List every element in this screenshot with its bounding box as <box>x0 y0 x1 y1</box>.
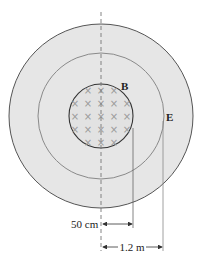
field-x-mark: × <box>71 98 79 109</box>
field-x-mark: × <box>84 85 92 96</box>
field-x-mark: × <box>123 111 131 122</box>
field-x-mark: × <box>110 124 118 135</box>
field-x-mark: × <box>84 98 92 109</box>
magnetic-field-diagram: ××××××××××××××××××××× B E 50 cm 1.2 m <box>0 0 201 259</box>
dimension-label-1-2m: 1.2 m <box>119 241 145 253</box>
field-x-mark: × <box>110 111 118 122</box>
field-x-mark: × <box>71 124 79 135</box>
field-x-mark: × <box>110 98 118 109</box>
field-x-mark: × <box>110 137 118 148</box>
dimension-label-50cm: 50 cm <box>71 218 99 230</box>
e-label: E <box>166 111 173 123</box>
field-x-mark: × <box>71 111 79 122</box>
field-x-mark: × <box>84 124 92 135</box>
field-x-mark: × <box>110 85 118 96</box>
field-x-mark: × <box>84 111 92 122</box>
field-x-mark: × <box>123 124 131 135</box>
b-label: B <box>121 80 129 92</box>
field-x-mark: × <box>123 98 131 109</box>
field-x-mark: × <box>84 137 92 148</box>
